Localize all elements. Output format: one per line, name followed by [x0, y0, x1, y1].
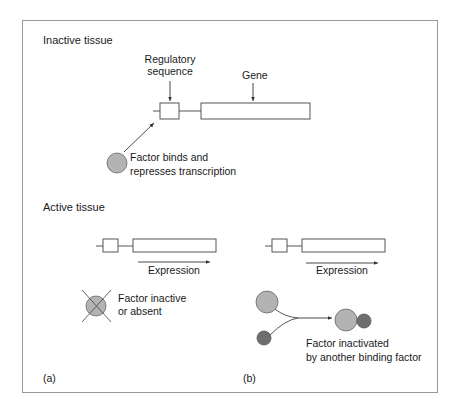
expression-label-b: Expression	[316, 264, 368, 277]
absent-factor-label-line1: Factor inactive	[118, 292, 186, 305]
panel-label-b: (b)	[243, 372, 256, 385]
repressor-label-line2: represses transcription	[130, 165, 236, 178]
repressor-factor-icon	[107, 153, 127, 173]
regulatory-sequence-box	[160, 103, 179, 119]
panel-label-a: (a)	[43, 372, 56, 385]
active-b-gene-construct	[265, 239, 385, 252]
factor-binding-arrow	[124, 123, 154, 152]
factor-icon	[256, 291, 278, 313]
expression-label-a: Expression	[148, 264, 200, 277]
gene-label: Gene	[242, 69, 268, 82]
inactive-gene-construct	[153, 103, 310, 119]
active-tissue-heading: Active tissue	[43, 201, 105, 214]
inactivated-factor-label-line1: Factor inactivated	[306, 337, 389, 350]
repressor-label-line1: Factor binds and	[130, 151, 208, 164]
binding-factor-icon	[257, 331, 271, 345]
gene-box	[201, 103, 310, 119]
active-a-gene-construct	[96, 239, 216, 252]
absent-factor-label-line2: or absent	[118, 305, 162, 318]
bound-factor-icon	[335, 309, 357, 331]
bound-binding-factor-icon	[357, 314, 371, 328]
inactivated-factor-label-line2: by another binding factor	[306, 351, 422, 364]
absent-factor-icon	[82, 290, 111, 322]
regulatory-label-line2: sequence	[140, 65, 200, 78]
inactive-tissue-heading: Inactive tissue	[43, 34, 113, 47]
